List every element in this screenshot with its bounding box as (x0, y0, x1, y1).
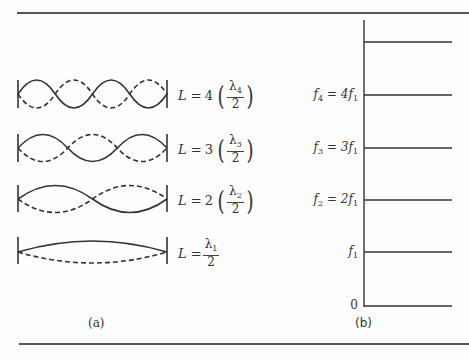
level-label-f2: f2 = 2f1 (278, 192, 358, 208)
f-rhs: = 4f (323, 87, 353, 101)
equation-mode-4: L = 4 ( λ4 2 ) (178, 80, 255, 111)
eq-coef: 3 (205, 142, 213, 157)
string-mode-3 (18, 134, 167, 162)
left-paren: ( (217, 137, 224, 163)
fraction: λ2 2 (227, 185, 244, 216)
f-rhs-sub: 1 (353, 147, 358, 156)
denominator: 2 (232, 98, 240, 111)
lambda-sub: 3 (237, 140, 242, 149)
eq-coef: 2 (205, 193, 213, 208)
left-paren: ( (217, 188, 224, 214)
equation-mode-1: L = λ1 2 (178, 238, 220, 269)
lambda-sub: 4 (237, 86, 242, 95)
eq-lhs: L = (178, 246, 202, 261)
frequency-level-diagram (364, 20, 452, 307)
denominator: 2 (232, 152, 240, 165)
lambda: λ (229, 184, 237, 198)
fraction: λ3 2 (227, 134, 244, 165)
lambda-sub: 1 (212, 244, 217, 253)
eq-lhs: L = (178, 142, 202, 157)
level-label-f3: f3 = 3f1 (278, 140, 358, 156)
eq-lhs: L = (178, 193, 202, 208)
lambda: λ (229, 79, 237, 93)
eq-lhs: L = (178, 88, 202, 103)
level-label-f1: f1 (278, 244, 358, 260)
string-mode-2 (18, 185, 167, 213)
f-rhs-sub: 1 (353, 199, 358, 208)
denominator: 2 (207, 256, 215, 269)
string-mode-4 (18, 80, 167, 108)
f-rhs: = 2f (323, 192, 353, 206)
equation-mode-2: L = 2 ( λ2 2 ) (178, 185, 255, 216)
caption-a: (a) (88, 316, 105, 330)
level-label-f4: f4 = 4f1 (278, 87, 358, 103)
eq-coef: 4 (205, 88, 213, 103)
fraction: λ1 2 (203, 238, 220, 269)
caption-b: (b) (355, 316, 372, 330)
string-mode-1 (18, 237, 167, 264)
f-rhs-sub: 1 (353, 94, 358, 103)
level-label-zero: 0 (278, 298, 358, 312)
lambda-sub: 2 (237, 191, 242, 200)
right-paren: ) (246, 188, 253, 214)
zero-label: 0 (350, 298, 358, 312)
fraction: λ4 2 (227, 80, 244, 111)
left-paren: ( (217, 83, 224, 109)
denominator: 2 (232, 203, 240, 216)
lambda: λ (229, 133, 237, 147)
standing-waves-diagram (0, 0, 469, 360)
equation-mode-3: L = 3 ( λ3 2 ) (178, 134, 255, 165)
right-paren: ) (246, 137, 253, 163)
f-rhs: = 3f (323, 140, 353, 154)
right-paren: ) (246, 83, 253, 109)
f-sub: 1 (353, 251, 358, 260)
